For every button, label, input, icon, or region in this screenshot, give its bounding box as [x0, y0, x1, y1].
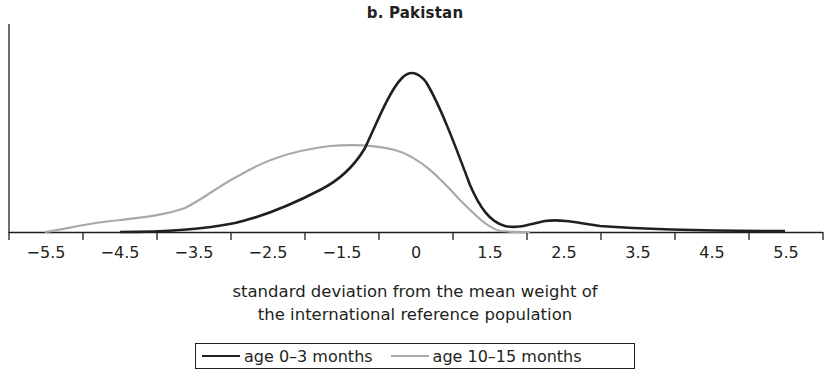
x-tick-label: −4.5	[90, 243, 150, 262]
x-tick-label: 2.5	[534, 243, 594, 262]
light-line-swatch-icon	[391, 355, 429, 357]
dark-line-swatch-icon	[202, 355, 240, 357]
x-axis-label-line-2: the international reference population	[0, 303, 830, 326]
x-tick-label: 5.5	[756, 243, 816, 262]
x-tick-label: −3.5	[164, 243, 224, 262]
legend: age 0–3 months age 10–15 months	[195, 343, 635, 369]
x-axis-label-line-1: standard deviation from the mean weight …	[0, 280, 830, 303]
legend-item-age-0-3: age 0–3 months	[196, 347, 373, 366]
x-tick-label: −5.5	[16, 243, 76, 262]
x-tick-label: 1.5	[460, 243, 520, 262]
legend-label: age 0–3 months	[244, 347, 373, 366]
series-age-0-3-months	[120, 73, 785, 232]
series-age-10-15-months	[45, 145, 530, 232]
x-axis-label: standard deviation from the mean weight …	[0, 280, 830, 326]
x-tick-label: 4.5	[682, 243, 742, 262]
legend-item-age-10-15: age 10–15 months	[373, 347, 582, 366]
x-tick-label: −2.5	[238, 243, 298, 262]
x-tick-label: 0	[386, 243, 446, 262]
x-tick-label: 3.5	[608, 243, 668, 262]
x-tick-label: −1.5	[312, 243, 372, 262]
legend-label: age 10–15 months	[433, 347, 582, 366]
